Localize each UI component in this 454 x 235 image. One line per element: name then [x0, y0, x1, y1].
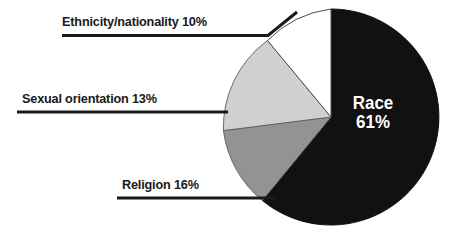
slice-label-race-name: Race [333, 94, 414, 113]
callout-label-sexual-orientation: Sexual orientation 13% [22, 91, 157, 106]
slice-label-race: Race 61% [333, 94, 414, 133]
callout-label-ethnicity: Ethnicity/nationality 10% [62, 14, 207, 29]
pie-chart-figure: Ethnicity/nationality 10% Sexual orienta… [0, 0, 454, 235]
slice-label-race-value: 61% [333, 113, 414, 132]
callout-label-religion: Religion 16% [122, 177, 199, 192]
